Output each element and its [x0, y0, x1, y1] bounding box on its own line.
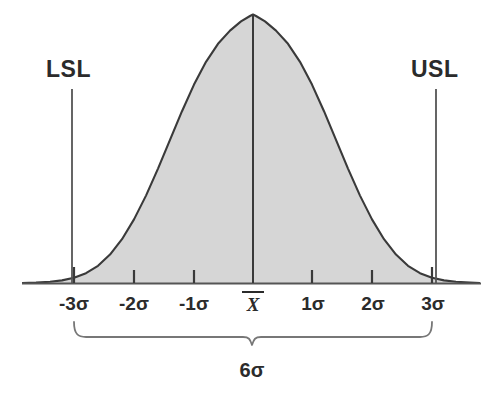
bell-curve-figure: LSL USL -3σ -2σ -1σ X 1σ 2σ 3σ 6σ: [0, 0, 496, 403]
axis-label-mean-xbar: X: [242, 291, 264, 314]
axis-label-plus-1-sigma: 1σ: [301, 294, 325, 313]
axis-label-plus-3-sigma: 3σ: [421, 294, 445, 313]
axis-label-minus-3-sigma: -3σ: [59, 294, 89, 313]
axis-label-minus-1-sigma: -1σ: [179, 294, 209, 313]
usl-label: USL: [411, 58, 459, 81]
xbar-overbar: [242, 291, 264, 293]
lsl-label: LSL: [46, 58, 91, 81]
six-sigma-brace: [74, 322, 432, 345]
axis-label-minus-2-sigma: -2σ: [119, 294, 149, 313]
axis-label-plus-2-sigma: 2σ: [361, 294, 385, 313]
xbar-glyph: X: [242, 295, 264, 314]
six-sigma-span-label: 6σ: [240, 360, 265, 380]
normal-curve-area: [22, 15, 480, 284]
